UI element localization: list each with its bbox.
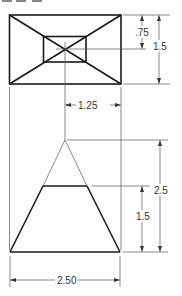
- technical-drawing: .75 1.5 1.25 2.5 1.5: [0, 0, 182, 296]
- dim-inner-height: .75: [135, 27, 149, 38]
- cone-right-thin: [65, 140, 87, 186]
- front-view-dimensions: 2.5 1.5: [67, 140, 168, 252]
- cone-left-thin: [43, 140, 65, 186]
- dim-offset-width: 1.25: [78, 100, 98, 111]
- dim-total-height: 2.5: [154, 185, 168, 196]
- dim-base-width: 2.50: [57, 275, 77, 286]
- dim-frustum-height: 1.5: [136, 211, 150, 222]
- top-view-dimensions: .75 1.5: [123, 15, 170, 84]
- base-dimension: 2.50: [10, 256, 120, 287]
- top-view: [10, 15, 147, 140]
- frustum-right: [87, 186, 120, 252]
- dim-outer-height: 1.5: [153, 41, 167, 52]
- front-view: [10, 140, 120, 252]
- offset-dimension: 1.25: [66, 100, 121, 111]
- cropped-title-remnant: [2, 0, 42, 2]
- frustum-left: [10, 186, 43, 252]
